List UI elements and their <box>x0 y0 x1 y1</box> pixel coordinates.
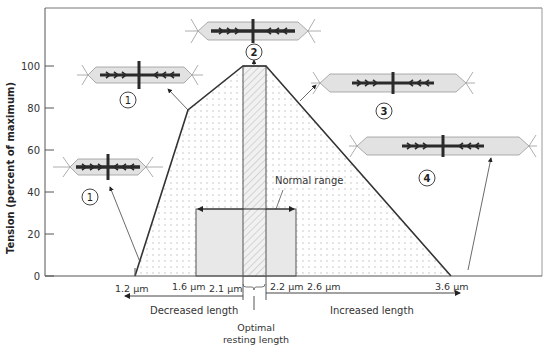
x-tick-label: 2.1 µm <box>209 283 242 294</box>
svg-text:2: 2 <box>251 47 258 58</box>
svg-text:3: 3 <box>381 106 388 117</box>
optimal-label-line2: resting length <box>223 334 289 345</box>
decreased-length-label: Decreased length <box>150 305 238 316</box>
y-tick-label: 80 <box>27 103 40 114</box>
y-tick-label: 60 <box>27 145 40 156</box>
y-tick-label: 100 <box>21 61 40 72</box>
badge-3: 3 <box>376 103 392 119</box>
x-tick-label: 2.2 µm <box>270 281 303 292</box>
y-ticks <box>45 66 54 276</box>
x-tick-label: 1.6 µm <box>172 281 205 292</box>
optimal-bracket <box>243 276 266 310</box>
x-tick-label: 1.2 µm <box>115 283 148 294</box>
y-tick-label: 20 <box>27 229 40 240</box>
normal-range-label: Normal range <box>275 175 343 186</box>
y-tick-label: 0 <box>34 271 40 282</box>
sarcomere-1-compressed <box>53 154 163 180</box>
svg-text:1: 1 <box>125 95 131 106</box>
sarcomere-3-stretched <box>311 72 475 94</box>
y-tick-label: 40 <box>27 187 40 198</box>
sarcomere-4-overstretched <box>349 135 537 157</box>
badge-2: 2 <box>246 44 262 60</box>
svg-text:1: 1 <box>87 192 93 203</box>
increased-length-label: Increased length <box>330 305 414 316</box>
sarcomere-1-short <box>77 61 203 89</box>
badge-1-low: 1 <box>82 189 98 205</box>
length-tension-diagram: 0 20 40 60 80 100 Tension (percent of ma… <box>0 0 546 350</box>
optimal-band <box>243 66 266 276</box>
sarcomere-2-optimal <box>185 19 321 43</box>
y-axis-title: Tension (percent of maximum) <box>5 82 16 254</box>
badge-1-high: 1 <box>120 92 136 108</box>
optimal-label-line1: Optimal <box>237 322 275 333</box>
badge-4: 4 <box>419 170 435 186</box>
x-tick-label: 3.6 µm <box>435 281 468 292</box>
x-tick-label: 2.6 µm <box>307 281 340 292</box>
svg-text:4: 4 <box>424 173 431 184</box>
